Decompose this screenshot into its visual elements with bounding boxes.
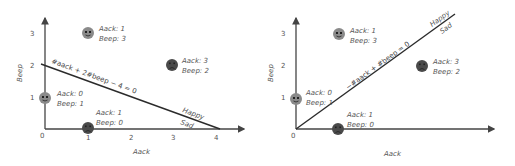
left-x-tick-3: 3	[171, 134, 175, 142]
left-point-aack0-beep1: Aack: 0 Beep: 1	[39, 90, 84, 108]
left-y-tick-1: 1	[30, 94, 34, 102]
left-x-axis-label: Aack	[132, 148, 151, 156]
left-x-tick-2: 2	[129, 134, 133, 142]
point-label-aack: Aack: 3	[432, 58, 459, 66]
diagram-canvas: 3 2 1 0 1 2 3 4 Aack Beep #aack + 2#beep…	[0, 0, 515, 166]
point-label-beep: Beep: 3	[99, 35, 126, 43]
point-label-aack: Aack: 0	[56, 90, 84, 98]
right-y-tick-1: 1	[281, 94, 285, 102]
left-x-tick-4: 4	[214, 134, 219, 142]
right-y-axis-label: Beep	[267, 64, 275, 82]
right-point-aack1-beep0: Aack: 1 Beep: 0	[332, 111, 374, 135]
left-point-aack3-beep2: Aack: 3 Beep: 2	[166, 57, 209, 75]
left-y-tick-3: 3	[30, 30, 34, 38]
right-x-axis-label: Aack	[383, 150, 402, 158]
right-y-tick-2: 2	[281, 62, 285, 70]
right-boundary-equation: −#aack + #beep = 0	[344, 40, 411, 92]
point-label-aack: Aack: 1	[346, 111, 373, 119]
point-label-aack: Aack: 1	[98, 25, 125, 33]
right-sad-label: Sad	[438, 21, 454, 36]
right-chart: 3 2 1 0 Aack Beep −#aack + #beep = 0 Hap…	[267, 8, 494, 158]
point-label-beep: Beep: 3	[350, 37, 377, 45]
left-point-aack1-beep3: Aack: 1 Beep: 3	[82, 25, 126, 43]
sad-face-icon	[332, 123, 344, 135]
happy-face-icon	[39, 92, 51, 104]
left-x-tick-1: 1	[86, 134, 90, 142]
point-label-aack: Aack: 1	[95, 109, 122, 117]
point-label-aack: Aack: 1	[349, 27, 376, 35]
sad-face-icon	[416, 60, 428, 72]
point-label-aack: Aack: 0	[305, 89, 333, 97]
happy-face-icon	[82, 27, 94, 39]
right-point-aack1-beep3: Aack: 1 Beep: 3	[333, 27, 377, 45]
left-chart: 3 2 1 0 1 2 3 4 Aack Beep #aack + 2#beep…	[16, 18, 244, 156]
point-label-beep: Beep: 2	[182, 67, 209, 75]
left-x-tick-0: 0	[40, 132, 44, 140]
sad-face-icon	[82, 122, 94, 134]
point-label-aack: Aack: 3	[181, 57, 208, 65]
left-y-axis-label: Beep	[16, 64, 24, 82]
sad-face-icon	[166, 59, 178, 71]
happy-face-icon	[333, 28, 345, 40]
right-point-aack3-beep2: Aack: 3 Beep: 2	[416, 58, 460, 76]
point-label-beep: Beep: 0	[347, 121, 374, 129]
left-y-tick-2: 2	[30, 62, 34, 70]
left-point-aack1-beep0: Aack: 1 Beep: 0	[82, 109, 123, 134]
happy-face-icon	[290, 93, 302, 105]
point-label-beep: Beep: 0	[96, 119, 123, 127]
right-x-tick-0: 0	[291, 132, 295, 140]
point-label-beep: Beep: 1	[306, 99, 333, 107]
right-y-tick-3: 3	[281, 30, 285, 38]
point-label-beep: Beep: 1	[57, 100, 84, 108]
point-label-beep: Beep: 2	[433, 68, 460, 76]
